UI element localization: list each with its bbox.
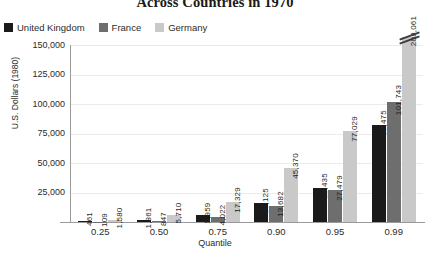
bar-slot: 27,479	[328, 45, 342, 222]
bar-group: 4611091,580	[71, 45, 130, 222]
bar-germany[interactable]	[402, 37, 416, 222]
legend-label-united-kingdom: United Kingdom	[17, 22, 85, 33]
legend-swatch-france	[99, 23, 108, 32]
bar-slot: 109	[93, 45, 107, 222]
bar-slot: 77,029	[343, 45, 357, 222]
bar-germany[interactable]	[343, 131, 357, 222]
bar-group: 1,8618475,710	[130, 45, 189, 222]
legend-label-france: France	[112, 22, 142, 33]
bar-slot: 16,125	[254, 45, 268, 222]
y-tick-label: 25,000	[5, 187, 65, 197]
x-axis-title: Quantile	[0, 238, 430, 248]
y-tick-label: 150,000	[5, 40, 65, 50]
bar-group: 16,12513,68245,370	[247, 45, 306, 222]
bar-slot: 461	[78, 45, 92, 222]
legend-label-germany: Germany	[168, 22, 207, 33]
bar-group: 5,9594,02217,329	[188, 45, 247, 222]
y-axis-ticks: 150,000 125,000 100,000 75,000 50,000 25…	[0, 45, 65, 223]
chart-figure: Across Countries in 1970 United Kingdom …	[0, 0, 430, 253]
bar-slot: 847	[152, 45, 166, 222]
bar-slot: 208,061	[402, 45, 416, 222]
bar-slot: 5,959	[196, 45, 210, 222]
bar-groups: 4611091,5801,8618475,7105,9594,02217,329…	[71, 45, 423, 222]
bar-united-kingdom[interactable]	[372, 125, 386, 222]
bar-slot: 17,329	[226, 45, 240, 222]
bar-group: 28,43527,47977,029	[306, 45, 365, 222]
y-tick-label: 50,000	[5, 158, 65, 168]
legend-swatch-germany	[155, 23, 164, 32]
chart-title: Across Countries in 1970	[0, 0, 430, 11]
y-tick-label: 100,000	[5, 99, 65, 109]
legend-item-united-kingdom[interactable]: United Kingdom	[4, 22, 85, 33]
y-tick-label: 75,000	[5, 128, 65, 138]
bar-slot: 45,370	[284, 45, 298, 222]
plot-area: 4611091,5801,8618475,7105,9594,02217,329…	[71, 45, 423, 222]
bar-slot: 28,435	[313, 45, 327, 222]
chart-legend: United Kingdom France Germany	[4, 22, 207, 33]
bar-slot: 13,682	[269, 45, 283, 222]
y-tick-label: 125,000	[5, 69, 65, 79]
legend-swatch-united-kingdom	[4, 23, 13, 32]
bar-slot: 1,861	[137, 45, 151, 222]
bar-slot: 82,475	[372, 45, 386, 222]
bar-slot: 1,580	[108, 45, 122, 222]
bar-slot: 4,022	[211, 45, 225, 222]
legend-item-france[interactable]: France	[99, 22, 142, 33]
bar-group: 82,475101,743208,061	[364, 45, 423, 222]
legend-item-germany[interactable]: Germany	[155, 22, 207, 33]
bar-france[interactable]	[387, 102, 401, 222]
bar-slot: 5,710	[167, 45, 181, 222]
bar-slot: 101,743	[387, 45, 401, 222]
